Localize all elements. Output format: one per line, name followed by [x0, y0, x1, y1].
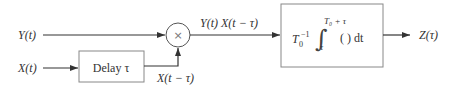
integrator-prefix-sup: −1	[301, 30, 310, 39]
product-signal-label: Y(t) X(t − τ)	[200, 16, 258, 30]
delayed-signal-arrow	[144, 48, 178, 66]
delay-block: Delay τ	[79, 51, 144, 82]
integrator-prefix-sub: 0	[299, 40, 303, 49]
multiplier-node: ×	[166, 23, 190, 47]
integrator-block: T 0 −1 ∫ T₀ + τ τ ( ) dt	[281, 4, 383, 67]
multiply-icon: ×	[173, 29, 182, 42]
block-diagram: Y(t) X(t) Delay τ X(t − τ) × Y(t) X(t − …	[0, 0, 458, 87]
delayed-signal-label: X(t − τ)	[156, 71, 194, 85]
integrator-body: ( ) dt	[340, 31, 364, 45]
y-input-label: Y(t)	[18, 28, 36, 42]
x-input-label: X(t)	[17, 61, 37, 75]
delay-label: Delay τ	[93, 61, 130, 75]
output-label: Z(τ)	[419, 28, 438, 42]
integrator-upper-limit: T₀ + τ	[324, 16, 347, 26]
